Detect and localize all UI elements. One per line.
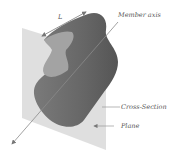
- diagram-graphic: [0, 0, 173, 153]
- plane-label: Plane: [121, 123, 139, 130]
- length-label: L: [58, 14, 62, 21]
- member-axis-label: Member axis: [118, 12, 161, 19]
- cross-section-label: Cross-Section: [121, 104, 167, 111]
- member-diagram: L Member axis Cross-Section Plane: [0, 0, 173, 153]
